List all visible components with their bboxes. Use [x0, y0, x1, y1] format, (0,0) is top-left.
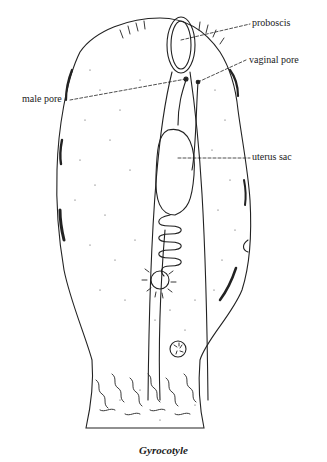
figure-caption: Gyrocotyle	[0, 444, 327, 456]
label-vaginal-pore: vaginal pore	[249, 55, 299, 65]
label-proboscis: proboscis	[252, 18, 290, 28]
ovary	[151, 271, 169, 289]
stipple	[74, 69, 235, 420]
gyrocotyle-drawing	[0, 0, 327, 462]
label-uterus-sac: uterus sac	[252, 152, 292, 162]
uterus-sac	[156, 129, 194, 215]
label-male-pore: male pore	[22, 94, 62, 104]
rosette-pore	[170, 341, 186, 357]
gyrocotyle-figure: proboscis vaginal pore male pore uterus …	[0, 0, 327, 462]
